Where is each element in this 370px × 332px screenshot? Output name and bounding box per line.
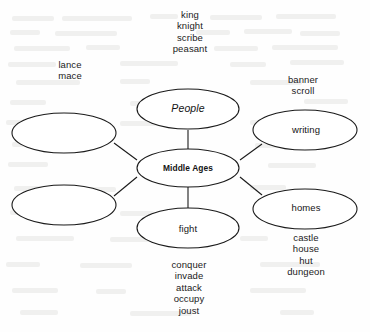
node-ellipse-blank-upper — [12, 113, 116, 153]
connector-center-blank-lower — [114, 177, 137, 196]
connector-center-blank-upper — [114, 143, 137, 160]
node-label-writing: writing — [292, 124, 320, 135]
word-list-writing: banner scroll — [280, 74, 326, 97]
node-label-homes: homes — [291, 202, 320, 213]
node-label-fight: fight — [179, 223, 197, 234]
word-list-homes: castle house hut dungeon — [282, 232, 330, 278]
word-list-people: king knight scribe peasant — [166, 9, 214, 55]
word-list-weapons: lance mace — [48, 59, 92, 82]
worksheet-page: Middle Ages People fight writing homes k… — [0, 0, 370, 332]
connector-center-writing — [240, 144, 262, 160]
node-ellipse-blank-lower — [12, 185, 116, 225]
node-label-people: People — [171, 102, 204, 114]
word-list-fight: conquer invade attack occupy joust — [164, 259, 214, 316]
node-label-center: Middle Ages — [163, 163, 213, 173]
connector-center-homes — [240, 177, 262, 195]
